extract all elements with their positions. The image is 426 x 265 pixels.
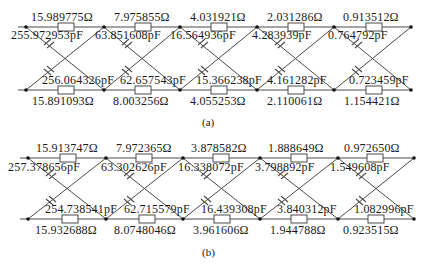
capacitor-label: 255.972953pF — [11, 29, 83, 41]
capacitor-label: 1.549608pF — [330, 161, 390, 173]
resistor-label: 15.932688Ω — [35, 224, 97, 236]
capacitor-label: 63.851608pF — [95, 29, 161, 41]
capacitor-label: 256.064326pF — [42, 74, 114, 86]
capacitor-label: 16.564936pF — [170, 29, 236, 41]
resistor-label: 15.891093Ω — [32, 95, 94, 107]
capacitor-label: 0.723459pF — [349, 74, 409, 86]
capacitor-label: 254.738541pF — [45, 203, 117, 215]
resistor-label: 2.110061Ω — [267, 95, 322, 107]
resistor-label: 0.972650Ω — [344, 142, 400, 154]
resistor-label: 15.913747Ω — [36, 142, 98, 154]
resistor-label: 0.913512Ω — [343, 11, 399, 23]
resistor-label: 0.923515Ω — [343, 224, 399, 236]
resistor-label: 8.003256Ω — [113, 95, 169, 107]
circuit-b-capacitor-icons — [46, 170, 366, 205]
resistor-label: 4.031921Ω — [190, 11, 246, 23]
capacitor-label: 16.439308pF — [201, 203, 267, 215]
resistor-label: 2.031286Ω — [267, 11, 323, 23]
capacitor-label: 0.764792pF — [328, 29, 388, 41]
capacitor-label: 4.161282pF — [267, 74, 327, 86]
resistor-label: 7.972365Ω — [116, 142, 172, 154]
caption-b: (b) — [202, 247, 215, 258]
capacitor-label: 4.283939pF — [252, 29, 312, 41]
resistor-label: 15.989775Ω — [31, 11, 93, 23]
resistor-label: 4.055253Ω — [190, 95, 246, 107]
resistor-label: 3.878582Ω — [191, 142, 247, 154]
capacitor-label: 15.366238pF — [196, 74, 262, 86]
capacitor-label: 257.378656pF — [8, 161, 80, 173]
resistor-label: 3.961606Ω — [193, 224, 249, 236]
caption-a: (a) — [202, 117, 214, 128]
capacitor-label: 63.302626pF — [101, 161, 167, 173]
capacitor-label: 16.338072pF — [178, 161, 244, 173]
capacitor-label: 3.798892pF — [255, 161, 315, 173]
resistor-label: 8.0748046Ω — [114, 224, 176, 236]
resistor-label: 1.154421Ω — [344, 95, 400, 107]
resistor-label: 1.888649Ω — [268, 142, 324, 154]
resistor-label: 1.944788Ω — [270, 224, 326, 236]
circuit-a-capacitor-icons — [44, 39, 362, 75]
capacitor-label: 3.840312pF — [277, 203, 337, 215]
capacitor-label: 1.082996pF — [354, 203, 414, 215]
capacitor-label: 62.657543pF — [120, 74, 186, 86]
capacitor-label: 62.715579pF — [124, 203, 190, 215]
resistor-label: 7.975855Ω — [114, 11, 170, 23]
